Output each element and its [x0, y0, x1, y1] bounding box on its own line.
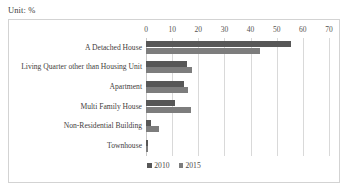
category-label: Apartment — [110, 83, 142, 91]
bar-2015 — [146, 48, 260, 54]
bar-2010 — [146, 61, 187, 67]
category-label: Non-Residential Building — [64, 122, 142, 130]
category-label: Townhouse — [107, 142, 142, 150]
legend-item-2010[interactable]: 2010 — [147, 161, 169, 170]
bar-2010 — [146, 81, 184, 87]
legend-label: 2010 — [154, 161, 169, 170]
legend-swatch-icon — [147, 163, 152, 168]
bar-2015 — [146, 87, 188, 93]
bar-2015 — [146, 146, 148, 152]
xtick-label-70: 70 — [325, 25, 333, 34]
bar-group: Townhouse — [146, 136, 329, 156]
bar-2015 — [146, 126, 159, 132]
bar-group: Non-Residential Building — [146, 117, 329, 137]
plot-area: 010203040506070 A Detached HouseLiving Q… — [146, 38, 329, 156]
category-label: Living Quarter other than Housing Unit — [21, 63, 142, 71]
bar-2010 — [146, 100, 175, 106]
category-label: A Detached House — [85, 44, 142, 52]
bar-2015 — [146, 67, 192, 73]
legend-item-2015[interactable]: 2015 — [179, 161, 201, 170]
bar-group: A Detached House — [146, 38, 329, 58]
bar-group: Apartment — [146, 77, 329, 97]
bar-group: Living Quarter other than Housing Unit — [146, 58, 329, 78]
xtick-label-20: 20 — [195, 25, 203, 34]
xtick-label-30: 30 — [221, 25, 229, 34]
unit-note: Unit: % — [8, 5, 35, 15]
xtick-label-10: 10 — [168, 25, 176, 34]
category-label: Multi Family House — [80, 103, 142, 111]
xtick-label-0: 0 — [144, 25, 148, 34]
chart-screenshot: Unit: % 010203040506070 A Detached House… — [0, 0, 348, 194]
bar-2010 — [146, 120, 151, 126]
chart-legend: 20102015 — [9, 161, 339, 170]
xtick-label-50: 50 — [273, 25, 281, 34]
bar-2010 — [146, 41, 291, 47]
bar-group: Multi Family House — [146, 97, 329, 117]
gridline-70 — [329, 38, 330, 156]
xtick-label-40: 40 — [247, 25, 255, 34]
bar-2010 — [146, 140, 148, 146]
legend-label: 2015 — [186, 161, 201, 170]
bar-2015 — [146, 107, 191, 113]
xtick-label-60: 60 — [299, 25, 307, 34]
legend-swatch-icon — [179, 163, 184, 168]
chart-frame: 010203040506070 A Detached HouseLiving Q… — [8, 19, 340, 183]
